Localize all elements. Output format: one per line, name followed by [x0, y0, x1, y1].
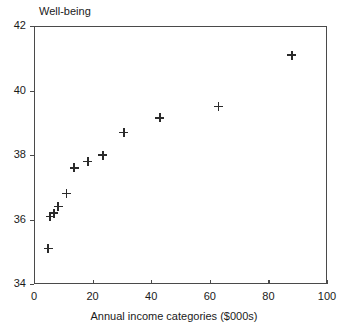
x-tick-label: 60: [190, 290, 230, 302]
y-tick-label: 42: [0, 19, 26, 31]
x-tick-label: 20: [73, 290, 113, 302]
x-tick-mark: [327, 280, 328, 284]
data-point-marker: [98, 151, 107, 160]
data-point-marker: [287, 51, 296, 60]
scatter-chart: Well-being 3436384042 020406080100 Annua…: [0, 0, 348, 334]
x-tick-label: 0: [14, 290, 54, 302]
x-axis-title: Annual income categories ($000s): [0, 310, 348, 322]
x-tick-mark: [34, 280, 35, 284]
data-point-marker: [155, 113, 164, 122]
y-tick-mark: [30, 155, 34, 156]
x-tick-label: 80: [248, 290, 288, 302]
x-tick-label: 100: [307, 290, 347, 302]
y-tick-mark: [30, 26, 34, 27]
plot-frame: [34, 26, 327, 284]
x-tick-mark: [268, 280, 269, 284]
data-point-marker: [70, 163, 79, 172]
data-point-marker: [214, 102, 223, 111]
y-tick-mark: [30, 91, 34, 92]
y-tick-label: 36: [0, 213, 26, 225]
data-point-marker: [44, 244, 53, 253]
data-point-marker: [54, 202, 63, 211]
y-tick-label: 40: [0, 84, 26, 96]
y-tick-label: 34: [0, 277, 26, 289]
y-tick-label: 38: [0, 148, 26, 160]
x-tick-mark: [93, 280, 94, 284]
y-tick-mark: [30, 220, 34, 221]
data-point-marker: [62, 189, 71, 198]
y-tick-mark: [30, 284, 34, 285]
x-tick-label: 40: [131, 290, 171, 302]
data-point-marker: [83, 157, 92, 166]
x-tick-mark: [151, 280, 152, 284]
x-tick-mark: [210, 280, 211, 284]
chart-title: Well-being: [39, 5, 91, 17]
data-point-marker: [119, 128, 128, 137]
